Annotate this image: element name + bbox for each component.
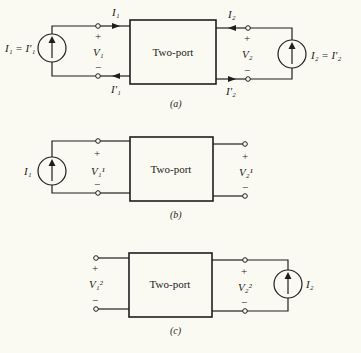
left-source-label: I₁ xyxy=(23,165,32,177)
right-source-label: I₂ xyxy=(305,278,314,290)
wire xyxy=(250,28,292,40)
terminal xyxy=(243,142,248,147)
current-source-left-icon xyxy=(38,34,66,62)
voltage-label: V₂ xyxy=(242,48,253,60)
wire xyxy=(52,26,97,34)
arrow-left-icon xyxy=(228,25,236,31)
caption-c: (c) xyxy=(170,325,182,337)
arrow-right-icon xyxy=(112,23,120,29)
current-label: I′₂ xyxy=(225,85,236,97)
wire xyxy=(52,141,97,157)
plus-sign: + xyxy=(242,150,248,162)
plus-sign: + xyxy=(244,32,250,44)
plus-sign: + xyxy=(92,262,98,274)
current-label: I₂ xyxy=(227,8,236,20)
voltage-label: V₂² xyxy=(238,281,253,293)
voltage-label: V₂¹ xyxy=(239,166,253,178)
plus-sign: + xyxy=(94,147,100,159)
voltage-label: V₁¹ xyxy=(91,165,105,177)
minus-sign: − xyxy=(95,61,101,73)
current-source-right-icon xyxy=(278,40,306,68)
wire xyxy=(247,260,288,270)
panel-c: + V₁² − Two-port + V₂² − I₂ (c) xyxy=(89,253,314,337)
wire xyxy=(250,68,292,79)
caption-b: (b) xyxy=(170,209,182,221)
two-port-label: Two-port xyxy=(150,278,191,290)
voltage-label: V₁ xyxy=(93,46,104,58)
terminal xyxy=(96,24,101,29)
minus-sign: − xyxy=(94,178,100,190)
right-source-label: I₂ = I′₂ xyxy=(310,49,341,61)
terminal xyxy=(243,194,248,199)
current-label: I′₁ xyxy=(110,83,121,95)
current-source-left-icon xyxy=(38,157,66,185)
terminal xyxy=(246,77,251,82)
caption-a: (a) xyxy=(170,98,182,110)
minus-sign: − xyxy=(241,296,247,308)
terminal xyxy=(243,309,248,314)
minus-sign: − xyxy=(244,64,250,76)
plus-sign: + xyxy=(95,30,101,42)
minus-sign: − xyxy=(242,181,248,193)
arrow-right-icon xyxy=(228,76,236,82)
minus-sign: − xyxy=(92,294,98,306)
plus-sign: + xyxy=(241,265,247,277)
two-port-figure: I₁ = I′₁ I₁ I′₁ + V₁ − Two-port I₂ I′₂ +… xyxy=(0,0,361,353)
current-label: I₁ xyxy=(111,6,120,18)
terminal xyxy=(96,191,101,196)
two-port-label: Two-port xyxy=(151,163,192,175)
panel-b: I₁ + V₁¹ − Two-port + V₂¹ − (b) xyxy=(23,137,253,221)
wire xyxy=(52,62,97,76)
wire xyxy=(247,298,288,311)
terminal xyxy=(94,256,99,261)
left-source-label: I₁ = I′₁ xyxy=(4,42,35,54)
two-port-label: Two-port xyxy=(153,46,194,58)
panel-a: I₁ = I′₁ I₁ I′₁ + V₁ − Two-port I₂ I′₂ +… xyxy=(4,6,341,110)
arrow-left-icon xyxy=(112,73,120,79)
terminal xyxy=(96,139,101,144)
terminal xyxy=(243,258,248,263)
voltage-label: V₁² xyxy=(89,278,104,290)
wire xyxy=(52,185,97,193)
terminal xyxy=(96,74,101,79)
terminal xyxy=(246,26,251,31)
terminal xyxy=(94,307,99,312)
current-source-right-icon xyxy=(274,270,302,298)
